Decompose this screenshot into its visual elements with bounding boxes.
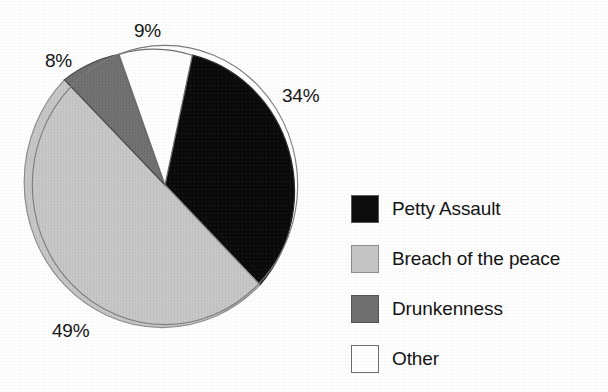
legend-item-breach-of-the-peace[interactable]: Breach of the peace [349, 243, 605, 293]
legend-swatch-black [351, 195, 379, 223]
legend: Petty Assault Breach of the peace Drunke… [349, 193, 605, 392]
pie-value-label-breach-of-the-peace: 49% [52, 321, 89, 340]
legend-label-breach-of-the-peace: Breach of the peace [392, 247, 560, 270]
legend-item-petty-assault[interactable]: Petty Assault [349, 193, 605, 243]
legend-swatch-light-gray [351, 245, 379, 273]
pie-value-label-drunkenness: 8% [45, 51, 72, 70]
legend-label-drunkenness: Drunkenness [392, 297, 503, 320]
pie-value-label-petty-assault: 34% [282, 86, 319, 105]
pie-chart-figure: 9% 8% 34% 49% Petty Assault Breach of th… [0, 0, 608, 392]
pie-value-label-other: 9% [134, 21, 161, 40]
legend-swatch-dark-gray [351, 295, 379, 323]
pie-plot-area: 9% 8% 34% 49% [0, 0, 340, 392]
legend-item-other[interactable]: Other [349, 343, 605, 392]
legend-item-drunkenness[interactable]: Drunkenness [349, 293, 605, 343]
legend-swatch-white [351, 345, 379, 373]
legend-label-other: Other [392, 347, 439, 370]
legend-label-petty-assault: Petty Assault [392, 197, 501, 220]
